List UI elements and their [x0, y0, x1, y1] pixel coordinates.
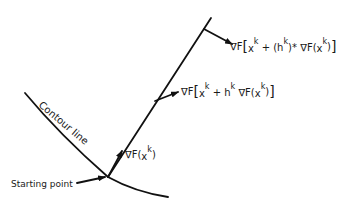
starting-point-arrow-icon — [77, 177, 105, 183]
gradient-step-arrow-icon — [155, 92, 178, 101]
contour-line-label: Contour line — [37, 99, 91, 147]
gradient-start-label: ∇F(xk) — [124, 145, 156, 162]
diagram-canvas: Contour line Starting point ∇F(xk) ∇F[xk… — [0, 0, 348, 220]
gradient-step-label: ∇F[xk + hk ∇F(xk)] — [180, 82, 275, 99]
gradient-opt-arrow-icon — [204, 29, 232, 44]
starting-point-label: Starting point — [11, 179, 73, 189]
gradient-opt-label: ∇F[xk + (hk)* ∇F(xk)] — [229, 37, 336, 54]
gradient-start-arrow-icon — [108, 151, 122, 177]
